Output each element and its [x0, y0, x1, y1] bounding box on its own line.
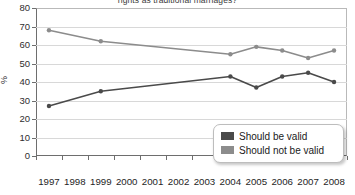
legend-swatch-icon — [221, 132, 234, 140]
legend-item-2[interactable]: Should not be valid — [221, 143, 336, 157]
x-axis-tick — [192, 156, 193, 160]
data-point — [280, 74, 284, 78]
y-axis-tick-label: 80 — [0, 3, 30, 13]
data-point — [332, 80, 336, 84]
x-axis-tick — [114, 156, 115, 160]
legend-swatch-icon — [221, 146, 234, 154]
data-point — [228, 74, 232, 78]
y-axis-tick-label: 0 — [0, 151, 30, 161]
y-axis-tick-label: 70 — [0, 22, 30, 32]
chart-screenshot: rights as traditional marriages? % 01020… — [0, 0, 355, 195]
chart-title: rights as traditional marriages? — [0, 0, 355, 5]
data-point — [228, 52, 232, 56]
data-point — [99, 39, 103, 43]
y-axis-tick-label: 10 — [0, 133, 30, 143]
x-axis-tick — [347, 156, 348, 160]
data-point — [280, 48, 284, 52]
y-axis-tick-label: 20 — [0, 114, 30, 124]
y-axis-tick-label: 30 — [0, 96, 30, 106]
x-axis-tick — [140, 156, 141, 160]
data-point — [254, 45, 258, 49]
series-line-1 — [49, 73, 334, 106]
y-axis-tick-label: 40 — [0, 77, 30, 87]
data-point — [99, 89, 103, 93]
x-axis-tick — [36, 156, 37, 160]
data-point — [254, 85, 258, 89]
y-axis-tick-label: 50 — [0, 59, 30, 69]
legend-item-label: Should be valid — [239, 131, 307, 142]
x-axis-tick — [62, 156, 63, 160]
series-line-2 — [49, 30, 334, 58]
legend-item-1[interactable]: Should be valid — [221, 129, 336, 143]
data-point — [306, 56, 310, 60]
y-axis-tick-label: 60 — [0, 40, 30, 50]
x-axis-tick — [166, 156, 167, 160]
legend-item-label: Should not be valid — [239, 145, 324, 156]
data-point — [47, 104, 51, 108]
data-point — [306, 71, 310, 75]
x-axis-tick-label: 2008 — [319, 176, 349, 187]
data-point — [332, 48, 336, 52]
x-axis-tick — [88, 156, 89, 160]
data-point — [47, 28, 51, 32]
legend[interactable]: Should be validShould not be valid — [213, 124, 344, 163]
